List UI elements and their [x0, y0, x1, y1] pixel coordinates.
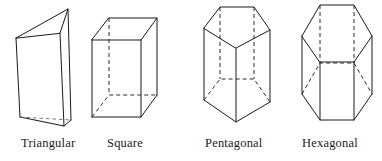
- hexagonal-prism-hidden-bottom-edges: [302, 63, 372, 94]
- pentagonal-prism-top-face-visible: [204, 7, 270, 48]
- square-prism-top-face: [92, 18, 157, 40]
- pentagonal-prism-hidden-bottom-edges: [204, 79, 270, 102]
- triangular-prism-edge-left: [16, 38, 20, 117]
- hexagonal-prism-top-face-visible: [302, 5, 372, 62]
- triangular-prism-drawing: [8, 0, 82, 132]
- triangular-prism-edge-front: [60, 33, 64, 126]
- hexagonal-prism-bottom-face-visible: [302, 94, 372, 120]
- square-prism-drawing: [87, 0, 163, 132]
- caption-square: Square: [107, 136, 143, 151]
- caption-triangular: Triangular: [21, 136, 75, 151]
- pentagonal-prism-bottom-face-visible: [204, 100, 270, 122]
- hexagonal-prism-drawing: [296, 0, 378, 136]
- caption-hexagonal: Hexagonal: [302, 136, 358, 151]
- caption-pentagonal: Pentagonal: [205, 136, 263, 151]
- prism-types-figure: Triangular Square Pentagonal Hexagonal: [0, 0, 382, 161]
- square-prism-hidden-bottom-edges: [92, 95, 157, 117]
- pentagonal-prism-drawing: [198, 0, 278, 136]
- triangular-prism-edge-right: [68, 9, 71, 120]
- square-prism-bottom-front-edges: [92, 95, 157, 117]
